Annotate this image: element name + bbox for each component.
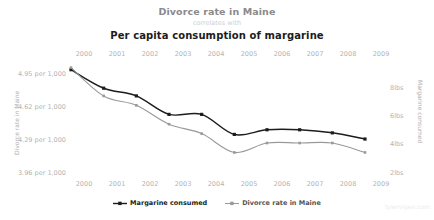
years-top-label: 2003: [168, 50, 198, 58]
chart-legend: Margarine consumedDivorce rate in Maine: [0, 199, 434, 207]
data-point-marker: [298, 128, 301, 131]
plot-area: [68, 62, 368, 176]
data-point-marker: [135, 104, 138, 107]
data-point-marker: [364, 151, 367, 154]
y-axis-left-title: Divorce rate in Maine: [13, 91, 20, 155]
years-top-label: 2008: [333, 50, 363, 58]
years-bottom-label: 2008: [333, 180, 363, 188]
data-point-marker: [200, 132, 203, 135]
watermark: tylervigen.com: [385, 203, 430, 210]
data-point-marker: [168, 123, 171, 126]
years-bottom-label: 2005: [234, 180, 264, 188]
years-top-label: 2000: [69, 50, 99, 58]
data-point-marker: [167, 113, 170, 116]
data-point-marker: [233, 151, 236, 154]
data-point-marker: [298, 142, 301, 145]
square-line-marker: [113, 200, 127, 207]
years-bottom-label: 2003: [168, 180, 198, 188]
years-bottom-label: 2001: [102, 180, 132, 188]
legend-item[interactable]: Divorce rate in Maine: [225, 199, 321, 207]
years-bottom-label: 2009: [366, 180, 396, 188]
data-point-marker: [135, 94, 138, 97]
years-bottom-label: 2002: [135, 180, 165, 188]
data-point-marker: [70, 66, 73, 69]
ticks-right-label: 4lbs: [390, 140, 420, 148]
legend-item-label: Divorce rate in Maine: [242, 199, 321, 207]
data-point-marker: [102, 87, 105, 90]
years-bottom-label: 2007: [300, 180, 330, 188]
years-bottom-label: 2000: [69, 180, 99, 188]
series-2: [70, 66, 367, 153]
data-point-marker: [266, 142, 269, 145]
page-subtitle: Per capita consumption of margarine: [0, 29, 434, 43]
ticks-left-label: 3.96 per 1,000: [16, 169, 66, 177]
data-point-marker: [200, 113, 203, 116]
data-point-marker: [102, 95, 105, 98]
page-title: Divorce rate in Maine: [0, 6, 434, 18]
years-top-label: 2009: [366, 50, 396, 58]
title-connector: correlates with: [0, 18, 434, 28]
data-point-marker: [331, 131, 334, 134]
ticks-left-label: 4.29 per 1,000: [16, 136, 66, 144]
years-top-label: 2004: [201, 50, 231, 58]
data-point-marker: [331, 142, 334, 145]
ticks-right-label: 2lbs: [390, 169, 420, 177]
legend-item[interactable]: Margarine consumed: [113, 199, 207, 207]
years-top-label: 2006: [267, 50, 297, 58]
years-top-label: 2001: [102, 50, 132, 58]
data-point-marker: [363, 137, 366, 140]
correlation-chart: Divorce rate in Maine correlates with Pe…: [0, 0, 434, 220]
ticks-right-label: 6lbs: [390, 112, 420, 120]
chart-header: Divorce rate in Maine correlates with Pe…: [0, 6, 434, 43]
series-line: [71, 68, 365, 153]
ticks-left-label: 4.95 per 1,000: [16, 70, 66, 78]
years-top-label: 2007: [300, 50, 330, 58]
square-line-marker: [225, 200, 239, 207]
years-top-label: 2002: [135, 50, 165, 58]
data-point-marker: [233, 133, 236, 136]
ticks-right-label: 8lbs: [390, 84, 420, 92]
years-bottom-label: 2006: [267, 180, 297, 188]
legend-item-label: Margarine consumed: [130, 199, 207, 207]
series-1: [69, 68, 366, 141]
data-point-marker: [265, 128, 268, 131]
y-axis-right-title: Margarine consumed: [417, 80, 424, 143]
years-top-label: 2005: [234, 50, 264, 58]
series-line: [71, 70, 365, 139]
ticks-left-label: 4.62 per 1,000: [16, 103, 66, 111]
series-canvas: [68, 62, 368, 176]
years-bottom-label: 2004: [201, 180, 231, 188]
